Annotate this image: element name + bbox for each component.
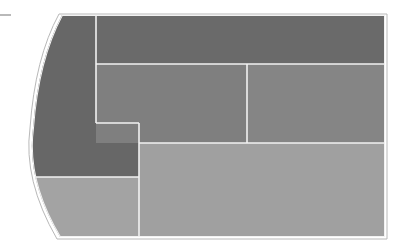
region-middle-left-overlay xyxy=(96,64,247,143)
treemap-diagram xyxy=(0,0,419,247)
regions-group xyxy=(0,15,385,237)
diagram-stage xyxy=(0,0,419,247)
region-bottom-right[interactable] xyxy=(139,143,385,237)
region-bottom-left[interactable] xyxy=(0,177,139,237)
region-top-band[interactable] xyxy=(96,15,385,64)
